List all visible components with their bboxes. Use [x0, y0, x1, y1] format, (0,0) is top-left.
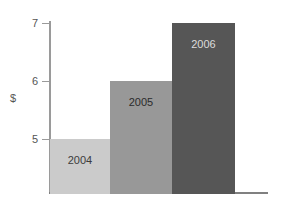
- bar-2005[interactable]: 2005: [110, 81, 172, 194]
- y-axis-title: $: [10, 92, 16, 104]
- y-tick-mark-7: [42, 23, 50, 24]
- bar-chart: $ 7 6 5 2004 2005 2006: [0, 0, 288, 205]
- bar-label-2005: 2005: [110, 96, 172, 108]
- bar-label-2006: 2006: [172, 38, 235, 50]
- y-tick-label-6: 6: [0, 75, 38, 87]
- bar-2006[interactable]: 2006: [172, 23, 235, 194]
- y-tick-mark-6: [42, 81, 50, 82]
- y-tick-label-5: 5: [0, 133, 38, 145]
- y-tick-label-7: 7: [0, 17, 38, 29]
- bar-label-2004: 2004: [50, 154, 110, 166]
- bar-2004[interactable]: 2004: [50, 139, 110, 194]
- y-tick-mark-5: [42, 139, 50, 140]
